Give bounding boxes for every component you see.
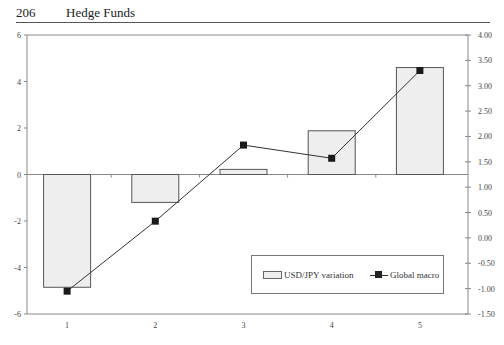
right-tick-label: -1.50 (478, 310, 495, 319)
right-tick-label: 3.50 (478, 56, 492, 65)
right-tick-label: 0.00 (478, 234, 492, 243)
x-tick-label: 3 (242, 321, 246, 330)
right-tick-label: -0.50 (478, 259, 495, 268)
left-tick-label: 4 (17, 78, 21, 87)
legend-item-line: Global macro (370, 270, 439, 280)
bar-usd-jpy (308, 131, 355, 175)
legend-line-label: Global macro (390, 270, 439, 280)
line-marker-swatch-icon (370, 271, 388, 279)
x-tick-label: 2 (153, 321, 157, 330)
left-tick-label: 2 (17, 124, 21, 133)
right-tick-label: 0.50 (478, 209, 492, 218)
bar-swatch-icon (263, 271, 282, 279)
left-tick-label: -2 (14, 217, 21, 226)
x-tick-label: 5 (418, 321, 422, 330)
square-marker-icon (328, 155, 335, 162)
left-tick-label: 0 (17, 171, 21, 180)
right-tick-label: 2.00 (478, 132, 492, 141)
bar-usd-jpy (396, 68, 443, 175)
left-tick-label: 6 (17, 31, 21, 40)
bar-usd-jpy (44, 175, 91, 288)
bar-usd-jpy (220, 169, 267, 174)
right-tick-label: 2.50 (478, 107, 492, 116)
x-tick-label: 4 (330, 321, 334, 330)
x-tick-label: 1 (65, 321, 69, 330)
square-marker-icon (64, 288, 71, 295)
square-marker-icon (152, 218, 159, 225)
right-tick-label: -1.00 (478, 285, 495, 294)
right-tick-label: 1.50 (478, 158, 492, 167)
legend-bar-label: USD/JPY variation (284, 270, 353, 280)
left-tick-label: -4 (14, 264, 21, 273)
legend-item-bar: USD/JPY variation (263, 270, 353, 280)
square-marker-icon (240, 142, 247, 149)
right-tick-label: 3.00 (478, 82, 492, 91)
square-marker-icon (416, 67, 423, 74)
right-tick-label: 4.00 (478, 31, 492, 40)
chart-legend: USD/JPY variation Global macro (251, 255, 444, 294)
bar-usd-jpy (132, 175, 179, 203)
right-tick-label: 1.00 (478, 183, 492, 192)
left-tick-label: -6 (14, 310, 21, 319)
